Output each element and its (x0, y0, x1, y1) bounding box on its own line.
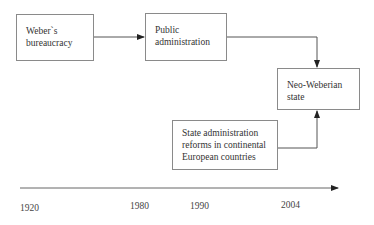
arrow-public-to-neo (227, 37, 317, 67)
node-public-administration: Public administration (145, 13, 227, 61)
timeline-year-2004: 2004 (281, 200, 300, 210)
node-label-line: bureaucracy (26, 37, 93, 49)
node-label-line: Neo-Weberian (287, 79, 359, 91)
node-neo-weberian-state: Neo-Weberian state (277, 68, 360, 110)
node-label-line: state (287, 91, 359, 103)
node-label-line: Public (155, 24, 226, 36)
timeline-year-1920: 1920 (20, 203, 39, 213)
node-label-line: Weber`s (26, 25, 93, 37)
timeline-year-1990: 1990 (190, 201, 209, 211)
node-weber-bureaucracy: Weber`s bureaucracy (16, 14, 94, 61)
timeline-year-1980: 1980 (130, 201, 149, 211)
node-label-line: European countries (182, 151, 277, 163)
node-label-line: administration (155, 36, 226, 48)
node-label-line: reforms in continental (182, 139, 277, 151)
arrow-reforms-to-neo (278, 111, 317, 148)
node-state-administration-reforms: State administration reforms in continen… (172, 120, 278, 170)
node-label-line: State administration (182, 127, 277, 139)
